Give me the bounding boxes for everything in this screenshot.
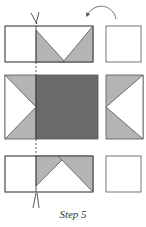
scissors-icon bbox=[33, 193, 39, 208]
bottom-plain-square bbox=[106, 156, 141, 192]
curved-arrow-icon bbox=[86, 6, 116, 19]
top-row bbox=[5, 26, 141, 62]
bottom-row bbox=[5, 156, 141, 192]
scissors-icon bbox=[31, 12, 39, 24]
step-caption: Step 5 bbox=[0, 208, 146, 220]
bottom-geese-unit bbox=[5, 156, 93, 192]
top-geese-unit bbox=[5, 26, 93, 62]
middle-right-unit bbox=[106, 75, 143, 139]
top-plain-square bbox=[106, 26, 141, 62]
middle-row bbox=[5, 75, 143, 139]
middle-left-unit bbox=[5, 75, 36, 139]
center-dark-square bbox=[36, 75, 98, 139]
quilt-step-diagram bbox=[0, 0, 146, 227]
